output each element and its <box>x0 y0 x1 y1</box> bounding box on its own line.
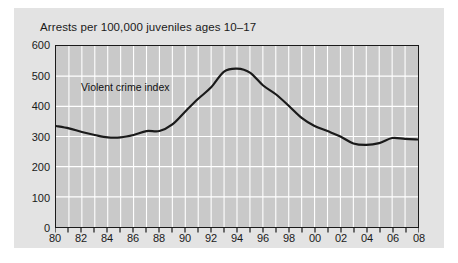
violent-crime-index-line <box>56 46 418 227</box>
x-tick-label: 98 <box>283 232 295 244</box>
chart-card: Arrests per 100,000 juveniles ages 10–17… <box>14 8 444 248</box>
chart-title: Arrests per 100,000 juveniles ages 10–17 <box>40 21 256 33</box>
x-tick-label: 04 <box>361 232 373 244</box>
x-tick-label: 96 <box>257 232 269 244</box>
plot-area <box>55 45 419 228</box>
x-tick-label: 02 <box>335 232 347 244</box>
y-axis-tick-labels: 0100200300400500600 <box>14 45 50 228</box>
y-tick-label: 600 <box>32 39 50 51</box>
x-tick-label: 88 <box>153 232 165 244</box>
x-tick-label: 92 <box>205 232 217 244</box>
y-tick-label: 300 <box>32 131 50 143</box>
series-annotation-label: Violent crime index <box>81 81 170 93</box>
y-tick-label: 400 <box>32 100 50 112</box>
x-axis-tick-labels: 808284868890929496980002040608 <box>55 232 419 248</box>
x-tick-label: 08 <box>413 232 425 244</box>
x-tick-label: 06 <box>387 232 399 244</box>
y-tick-label: 100 <box>32 192 50 204</box>
x-tick-label: 86 <box>127 232 139 244</box>
x-tick-label: 90 <box>179 232 191 244</box>
x-tick-label: 84 <box>101 232 113 244</box>
x-tick-label: 82 <box>75 232 87 244</box>
x-tick-label: 94 <box>231 232 243 244</box>
x-tick-label: 80 <box>49 232 61 244</box>
y-tick-label: 200 <box>32 161 50 173</box>
plot-wrapper: Violent crime index <box>55 45 419 228</box>
x-tick-label: 00 <box>309 232 321 244</box>
y-tick-label: 500 <box>32 70 50 82</box>
